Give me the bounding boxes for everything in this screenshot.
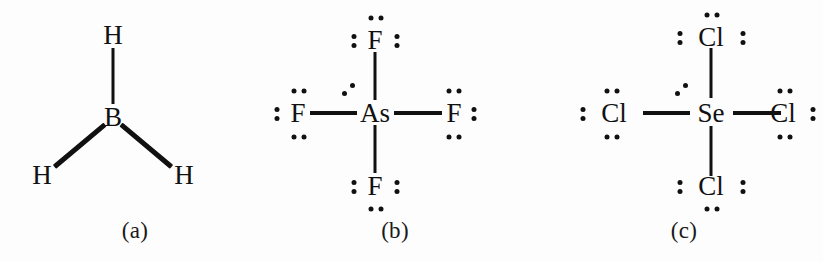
- atom-cl-top: Cl: [698, 24, 724, 51]
- lone-pair-f-bottom-right: [395, 180, 400, 194]
- structure-panel-b: As F F: [250, 0, 540, 261]
- caption-c: (c): [545, 218, 823, 244]
- bond-as-to-f-left: [310, 111, 357, 115]
- lone-pair-f-left-above: [292, 89, 307, 94]
- atom-as-center: As: [360, 100, 390, 127]
- lone-pair-se-upper-left: [674, 83, 690, 99]
- lone-pair-f-top-right: [395, 34, 400, 48]
- bond-b-to-h-top: [112, 48, 115, 104]
- structure-panel-c: Se Cl Cl: [545, 0, 823, 261]
- lone-pair-cl-right-right: [811, 107, 816, 121]
- bond-as-to-f-bottom: [374, 125, 377, 173]
- atom-b-center: B: [104, 104, 122, 131]
- atom-cl-left: Cl: [601, 100, 627, 127]
- atom-f-left: F: [290, 100, 305, 127]
- lone-pair-cl-left-left: [581, 107, 586, 121]
- lone-pair-cl-top-left: [678, 31, 683, 45]
- atom-f-right: F: [446, 100, 461, 127]
- lone-pair-f-top-above: [369, 16, 384, 21]
- atom-h-bottom-left: H: [32, 162, 52, 189]
- lone-pair-f-left-left: [275, 107, 280, 121]
- lone-pair-cl-left-above: [605, 89, 620, 94]
- lone-pair-cl-top-above: [705, 13, 720, 18]
- atom-f-top: F: [367, 27, 382, 54]
- atom-h-bottom-right: H: [174, 162, 194, 189]
- atom-cl-bottom: Cl: [698, 173, 724, 200]
- lone-pair-cl-top-right: [741, 31, 746, 45]
- lone-pair-as-upper-left: [341, 83, 357, 99]
- bond-se-to-cl-left: [643, 111, 690, 115]
- lone-pair-f-right-below: [447, 135, 462, 140]
- atom-cl-right: Cl: [770, 100, 796, 127]
- structure-b-stage: As F F: [250, 0, 540, 215]
- bond-b-to-h-bottom-right: [119, 123, 173, 169]
- caption-b: (b): [250, 218, 540, 244]
- caption-a: (a): [0, 218, 270, 244]
- lone-pair-cl-right-below: [778, 135, 793, 140]
- atom-f-bottom: F: [367, 173, 382, 200]
- lewis-structure-figure: H B H H (a) As F: [0, 0, 823, 261]
- structure-panel-a: H B H H (a): [0, 0, 270, 261]
- bond-se-to-cl-top: [710, 48, 713, 98]
- lone-pair-f-bottom-below: [369, 207, 384, 212]
- lone-pair-cl-bottom-left: [678, 180, 683, 194]
- atom-se-center: Se: [698, 100, 725, 127]
- lone-pair-cl-left-below: [605, 135, 620, 140]
- lone-pair-cl-bottom-below: [705, 207, 720, 212]
- lone-pair-cl-right-above: [778, 89, 793, 94]
- bond-se-to-cl-bottom: [710, 126, 713, 176]
- lone-pair-cl-bottom-right: [741, 180, 746, 194]
- structure-c-stage: Se Cl Cl: [545, 0, 823, 215]
- lone-pair-f-right-right: [472, 107, 477, 121]
- bond-as-to-f-top: [374, 52, 377, 100]
- lone-pair-f-bottom-left: [352, 180, 357, 194]
- lone-pair-f-top-left: [352, 34, 357, 48]
- lone-pair-f-left-below: [292, 135, 307, 140]
- atom-h-top: H: [103, 22, 123, 49]
- lone-pair-f-right-above: [447, 89, 462, 94]
- structure-a-stage: H B H H: [0, 0, 270, 215]
- bond-as-to-f-right: [394, 111, 442, 115]
- bond-b-to-h-bottom-left: [53, 123, 107, 169]
